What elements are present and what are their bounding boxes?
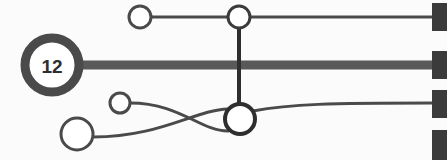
diagram-canvas: 12 [0, 0, 447, 160]
terminal-block-4[interactable] [432, 130, 447, 160]
node-top-left[interactable] [129, 6, 151, 28]
terminal-block-1[interactable] [432, 3, 447, 31]
terminal-block-3[interactable] [432, 90, 447, 118]
node-mid-left-small[interactable] [110, 93, 130, 113]
node-12-label: 12 [41, 56, 62, 77]
terminal-block-2[interactable] [432, 51, 447, 79]
node-top-junction[interactable] [228, 6, 250, 28]
node-bottom-junction[interactable] [225, 104, 255, 134]
node-12[interactable]: 12 [25, 38, 79, 92]
node-bottom-left[interactable] [61, 118, 93, 150]
diagram-svg: 12 [0, 0, 447, 160]
